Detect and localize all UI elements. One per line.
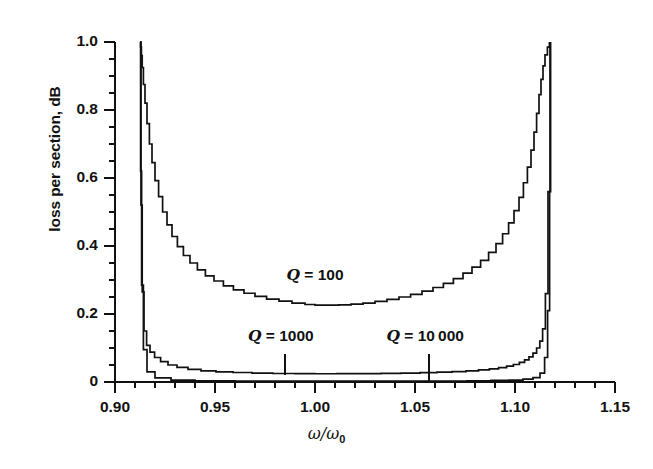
x-tick-label: 1.05 (385, 398, 445, 416)
annotation-leader-lines (285, 354, 429, 382)
series-annotation: Q = 100 (287, 265, 344, 284)
series-annotation: Q = 1000 (248, 326, 314, 345)
annotation-value: = 100 (300, 266, 344, 283)
annotation-symbol: Q (387, 326, 401, 345)
x-tick-label: 1.10 (485, 398, 545, 416)
annotation-symbol: Q (287, 265, 301, 284)
data-curve-q1000 (140, 42, 550, 374)
x-tick-label: 1.15 (585, 398, 645, 416)
y-tick-label: 1.0 (44, 32, 98, 50)
x-tick-label: 0.90 (85, 398, 145, 416)
y-tick-label: 0.2 (44, 304, 98, 322)
x-axis-label: ω/ω0 (0, 424, 653, 445)
series-annotation: Q = 10 000 (387, 326, 464, 345)
y-tick-label: 0 (44, 372, 98, 390)
y-tick-label: 0.6 (44, 168, 98, 186)
annotation-value: = 10 000 (400, 327, 464, 344)
data-curve-q100 (140, 42, 549, 305)
data-curves-group (140, 42, 551, 381)
y-tick-label: 0.8 (44, 100, 98, 118)
data-curve-q10000 (140, 42, 551, 381)
x-tick-label: 0.95 (185, 398, 245, 416)
y-tick-label: 0.4 (44, 236, 98, 254)
annotation-symbol: Q (248, 326, 262, 345)
figure-container: loss per section, dB ω/ω0 0.900.951.001.… (0, 0, 653, 469)
annotation-value: = 1000 (262, 327, 314, 344)
x-tick-label: 1.00 (285, 398, 345, 416)
